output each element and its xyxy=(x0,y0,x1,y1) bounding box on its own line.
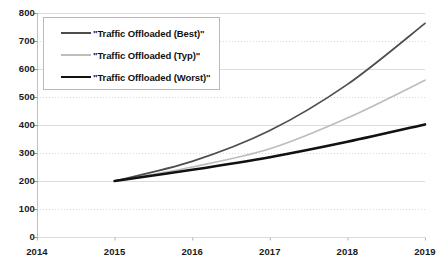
legend-item-best[interactable]: "Traffic Offloaded (Best)" xyxy=(44,23,219,43)
legend-swatch-best-icon xyxy=(61,32,91,34)
y-axis-tick-label: 800 xyxy=(7,7,35,18)
legend-item-worst[interactable]: "Traffic Offloaded (Worst)" xyxy=(44,67,219,87)
legend-label-typ: "Traffic Offloaded (Typ)" xyxy=(93,50,200,61)
y-axis-tick-label: 0 xyxy=(7,231,35,242)
x-axis-tick-label: 2015 xyxy=(87,246,143,257)
chart-legend: "Traffic Offloaded (Best)" "Traffic Offl… xyxy=(43,17,220,90)
y-axis-tick-label: 300 xyxy=(7,147,35,158)
y-axis-tick-label: 500 xyxy=(7,91,35,102)
legend-swatch-typ-icon xyxy=(61,54,91,56)
x-axis-tick-label: 2018 xyxy=(319,246,375,257)
y-axis-tick-label: 100 xyxy=(7,203,35,214)
x-axis-tick-label: 2017 xyxy=(242,246,298,257)
legend-label-worst: "Traffic Offloaded (Worst)" xyxy=(93,72,211,83)
y-axis-tick-label: 200 xyxy=(7,175,35,186)
legend-item-typ[interactable]: "Traffic Offloaded (Typ)" xyxy=(44,45,219,65)
y-axis-tick-label: 400 xyxy=(7,119,35,130)
x-axis-tick-label: 2014 xyxy=(9,246,65,257)
legend-swatch-worst-icon xyxy=(61,76,91,79)
legend-label-best: "Traffic Offloaded (Best)" xyxy=(93,28,204,39)
x-axis-tick-label: 2019 xyxy=(397,246,440,257)
y-axis-tick-label: 700 xyxy=(7,35,35,46)
y-axis-tick-label: 600 xyxy=(7,63,35,74)
x-axis-tick-label: 2016 xyxy=(164,246,220,257)
